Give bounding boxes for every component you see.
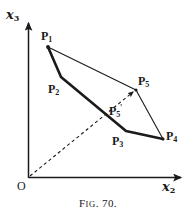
point-label-p3-sub: 3 bbox=[119, 140, 123, 149]
point-label-p4-sub: 4 bbox=[173, 135, 177, 144]
figure-caption-smallcaps: IG bbox=[86, 199, 96, 209]
point-label-p1: P1 bbox=[41, 30, 52, 44]
point-label-p5-prime-mark: ' bbox=[120, 102, 122, 113]
origin-label: O bbox=[17, 180, 26, 192]
x2-axis-label-main: x bbox=[162, 179, 170, 194]
thin-line-p5-p4 bbox=[136, 90, 163, 139]
x3-axis-label: x3 bbox=[6, 8, 19, 22]
x3-axis-label-main: x bbox=[6, 7, 14, 22]
point-label-p2-sub: 2 bbox=[55, 88, 59, 97]
point-label-p5-prime: P5' bbox=[109, 103, 122, 119]
x2-axis-label: x2 bbox=[162, 180, 175, 194]
bold-polyline-p1-p2-p3-p4 bbox=[48, 47, 163, 139]
point-label-p5: P5 bbox=[138, 75, 149, 89]
thin-line-p1-p5 bbox=[48, 47, 136, 90]
point-label-p5-sub: 5 bbox=[145, 80, 149, 89]
point-label-p4: P4 bbox=[166, 130, 177, 144]
point-label-p3: P3 bbox=[112, 135, 123, 149]
x3-axis-label-sub: 3 bbox=[14, 13, 20, 23]
vertex-dot-p1 bbox=[46, 45, 50, 49]
x2-axis-label-sub: 2 bbox=[170, 185, 176, 195]
point-label-p1-sub: 1 bbox=[48, 35, 52, 44]
point-label-p2: P2 bbox=[48, 83, 59, 97]
figure-70: x3 x2 O P1 P2 P3 P4 P5 P5' FIG. 70. bbox=[0, 0, 196, 215]
figure-caption-number: . 70. bbox=[96, 197, 117, 209]
figure-caption: FIG. 70. bbox=[0, 197, 196, 209]
vertex-dot-p4 bbox=[162, 138, 165, 141]
